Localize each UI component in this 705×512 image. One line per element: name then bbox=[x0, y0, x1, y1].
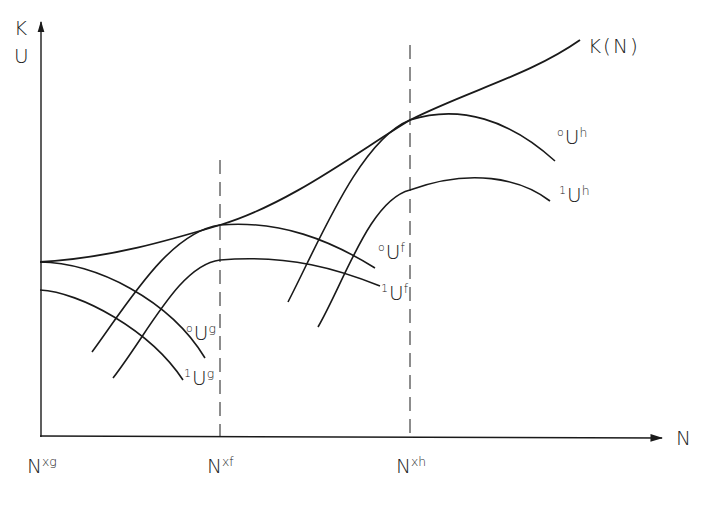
label-u0h: oUh bbox=[557, 127, 587, 147]
label-u0h-base: U bbox=[565, 125, 580, 149]
label-u1g-sup: g bbox=[207, 366, 214, 381]
label-u0h-pre: o bbox=[557, 126, 564, 139]
x-axis bbox=[40, 436, 662, 438]
tick-label-nxg: Nxg bbox=[27, 456, 57, 476]
label-u0f: oUf bbox=[378, 242, 405, 262]
curve-u1f bbox=[113, 259, 380, 378]
x-axis-label-n: N bbox=[676, 428, 691, 448]
label-u0h-sup: h bbox=[579, 125, 587, 140]
tick-nxf-sup: xf bbox=[222, 454, 234, 469]
label-u0g-pre: o bbox=[186, 322, 193, 335]
label-u0g: oUg bbox=[186, 323, 216, 343]
tick-nxh-sup: xh bbox=[411, 454, 426, 469]
label-u1h: 1Uh bbox=[559, 185, 590, 205]
tick-nxh-base: N bbox=[396, 454, 411, 478]
tick-nxg-sup: xg bbox=[42, 454, 57, 469]
curve-u1g bbox=[40, 290, 183, 380]
label-u1g-pre: 1 bbox=[184, 367, 191, 380]
label-u1f-base: U bbox=[389, 281, 404, 305]
curve-k-of-n bbox=[40, 40, 580, 262]
curve-u0f bbox=[92, 224, 375, 352]
y-axis-label-u: U bbox=[14, 46, 29, 66]
label-u0g-base: U bbox=[194, 321, 209, 345]
tick-nxg-base: N bbox=[27, 454, 42, 478]
tick-label-nxf: Nxf bbox=[207, 456, 234, 476]
label-u1f-pre: 1 bbox=[381, 282, 388, 295]
label-u1g-base: U bbox=[192, 366, 207, 390]
label-u1f-sup: f bbox=[404, 281, 408, 296]
tick-label-nxh: Nxh bbox=[396, 456, 426, 476]
label-u0f-pre: o bbox=[378, 241, 385, 254]
label-u1f: 1Uf bbox=[381, 283, 408, 303]
label-k-of-n: K(N) bbox=[588, 36, 640, 56]
curve-u0h bbox=[288, 114, 555, 302]
label-u1g: 1Ug bbox=[184, 368, 214, 388]
label-u1h-pre: 1 bbox=[559, 184, 566, 197]
tick-nxf-base: N bbox=[207, 454, 222, 478]
diagram-canvas bbox=[0, 0, 705, 512]
label-u1h-sup: h bbox=[582, 183, 590, 198]
label-u1h-base: U bbox=[567, 183, 582, 207]
label-u0g-sup: g bbox=[208, 321, 215, 336]
label-u0f-sup: f bbox=[400, 240, 404, 255]
y-axis-label-k: K bbox=[14, 18, 27, 38]
curve-u1h bbox=[318, 178, 550, 327]
label-u0f-base: U bbox=[386, 240, 401, 264]
diagram-figure: K U N K(N) Nxg Nxf Nxh oUh 1Uh oUf 1Uf o… bbox=[0, 0, 705, 512]
